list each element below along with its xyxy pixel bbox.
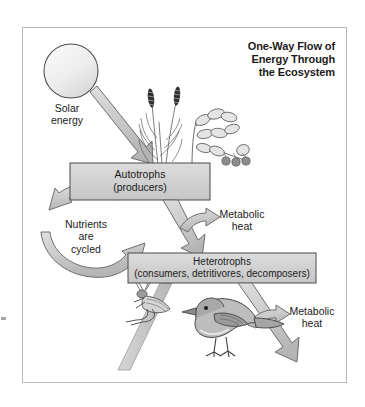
autotrophs-box xyxy=(70,163,210,200)
bird-illustration xyxy=(182,298,284,357)
metabolic-heat-upper-label: Metabolic heat xyxy=(206,208,278,233)
heterotroph-connector-lines xyxy=(139,283,150,290)
heterotrophs-box xyxy=(128,253,316,283)
solar-energy-arrow xyxy=(90,86,153,164)
nutrients-cycled-label: Nutrients are cycled xyxy=(51,218,121,255)
solar-energy-label: Solar energy xyxy=(36,102,98,127)
page-title: One-Way Flow of Energy Through the Ecosy… xyxy=(215,40,335,79)
sun-icon xyxy=(44,44,98,98)
metabolic-heat-lower-label: Metabolic heat xyxy=(276,305,348,330)
berry-plant-illustration xyxy=(192,107,251,166)
figure-root: One-Way Flow of Energy Through the Ecosy… xyxy=(0,0,365,407)
